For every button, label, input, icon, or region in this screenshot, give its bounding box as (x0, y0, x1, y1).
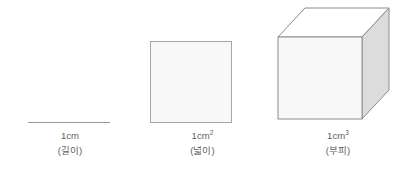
unit-label-length: 1cm (0, 130, 140, 143)
panel-length: 1cm (길이) (0, 0, 140, 174)
caption-area: 1cm2 (넓이) (140, 130, 265, 158)
meaning-label-length: (길이) (0, 145, 140, 158)
caption-volume: 1cm3 (부피) (265, 130, 411, 158)
meaning-label-area: (넓이) (140, 145, 265, 158)
square-shape (150, 41, 232, 123)
line-segment-shape (28, 122, 110, 123)
panel-volume: 1cm3 (부피) (265, 0, 411, 174)
unit-exponent-volume: 3 (345, 129, 349, 136)
cube-front-face (278, 37, 362, 119)
cube-shape (265, 0, 411, 140)
unit-exponent-area: 2 (210, 129, 214, 136)
caption-length: 1cm (길이) (0, 130, 140, 158)
unit-label-volume: 1cm3 (265, 130, 411, 143)
panel-area: 1cm2 (넓이) (140, 0, 265, 174)
measurement-units-figure: 1cm (길이) 1cm2 (넓이) 1cm3 (부피) (0, 0, 411, 174)
unit-label-area: 1cm2 (140, 130, 265, 143)
meaning-label-volume: (부피) (265, 145, 411, 158)
